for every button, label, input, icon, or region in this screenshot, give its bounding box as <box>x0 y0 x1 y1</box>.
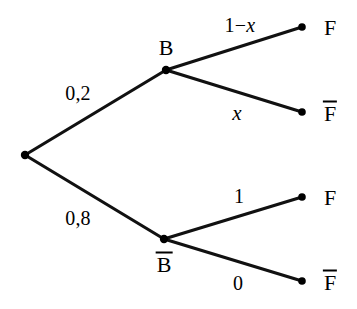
branch-label-b-to-f: 1−x <box>225 15 256 35</box>
leaf-label-fbar-1: F <box>324 102 336 125</box>
leaf-label-fbar-1-text: F <box>324 102 336 125</box>
leaf-label-f-1: F <box>324 17 336 39</box>
node-leaf-fbar-1-dot <box>298 108 306 116</box>
node-bbar-dot <box>160 235 168 243</box>
node-leaf-fbar-2-dot <box>298 277 306 285</box>
node-label-bbar-text: B <box>157 253 172 276</box>
tree-branches-svg <box>0 0 357 309</box>
node-leaf-f-1-dot <box>298 23 306 31</box>
node-b-dot <box>162 66 170 74</box>
branch-label-b-to-fbar: x <box>232 103 241 124</box>
branch-root-to-b <box>25 70 166 155</box>
branch-label-root-to-bbar: 0,8 <box>65 208 91 228</box>
branch-label-b-to-f-variable: x <box>246 14 255 36</box>
probability-tree-diagram: 0,2 0,8 1−x x 1 0 B B F F F F <box>0 0 357 309</box>
branch-root-to-bbar <box>25 155 164 239</box>
node-label-bbar: B <box>157 253 172 276</box>
node-root-dot <box>21 151 29 159</box>
branch-label-root-to-b: 0,2 <box>65 83 91 103</box>
leaf-label-fbar-2-text: F <box>324 271 336 294</box>
node-leaf-f-2-dot <box>298 193 306 201</box>
leaf-label-fbar-2: F <box>324 271 336 294</box>
branch-label-b-to-f-prefix: 1− <box>225 14 247 36</box>
node-label-b: B <box>159 37 174 59</box>
leaf-label-f-2: F <box>324 187 336 209</box>
branch-label-bbar-to-f: 1 <box>234 186 244 206</box>
branch-label-bbar-to-fbar: 0 <box>233 273 243 293</box>
